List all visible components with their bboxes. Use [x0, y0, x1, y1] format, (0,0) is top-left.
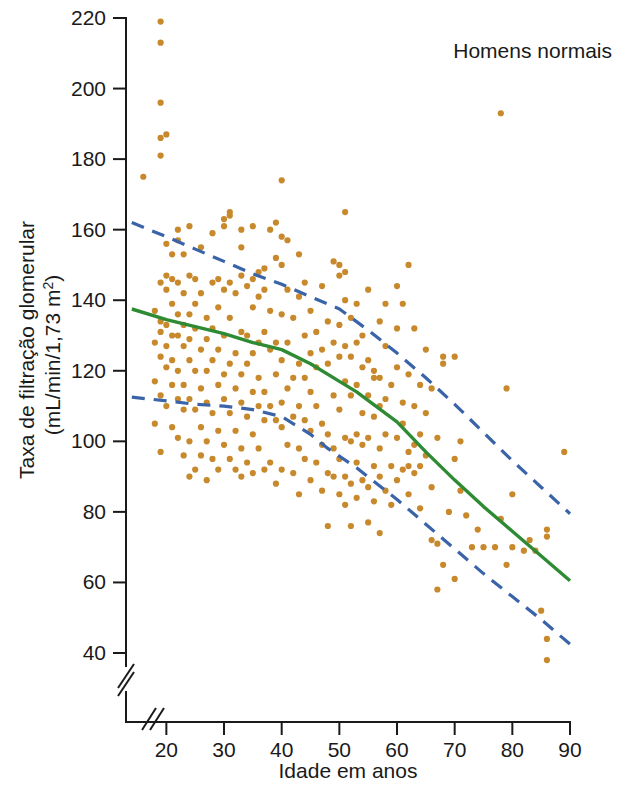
scatter-point: [348, 392, 354, 398]
scatter-point: [238, 227, 244, 233]
scatter-point: [544, 657, 550, 663]
scatter-point: [244, 283, 250, 289]
figure-container: 406080100120140160180200220 203040506070…: [0, 0, 620, 793]
scatter-point: [157, 392, 163, 398]
scatter-point: [227, 410, 233, 416]
scatter-point: [388, 382, 394, 388]
scatter-point: [198, 452, 204, 458]
scatter-point: [394, 364, 400, 370]
scatter-point: [342, 269, 348, 275]
x-tick-label: 50: [328, 738, 351, 761]
scatter-point: [463, 512, 469, 518]
scatter-point: [163, 272, 169, 278]
scatter-point: [319, 347, 325, 353]
scatter-point: [152, 421, 158, 427]
scatter-point: [400, 301, 406, 307]
scatter-point: [544, 533, 550, 539]
scatter-point: [238, 272, 244, 278]
scatter-point: [544, 636, 550, 642]
scatter-point: [215, 428, 221, 434]
scatter-point: [273, 220, 279, 226]
scatter-point: [354, 431, 360, 437]
scatter-point: [209, 456, 215, 462]
scatter-point: [492, 544, 498, 550]
scatter-point: [307, 477, 313, 483]
scatter-point: [250, 223, 256, 229]
scatter-point: [319, 283, 325, 289]
scatter-point: [371, 368, 377, 374]
scatter-point: [475, 526, 481, 532]
scatter-point: [417, 431, 423, 437]
scatter-point: [302, 332, 308, 338]
scatter-point: [186, 396, 192, 402]
y-axis-title-line2: (mL/min/1,73 m2): [40, 275, 64, 436]
scatter-point: [377, 530, 383, 536]
scatter-point: [354, 339, 360, 345]
scatter-point: [261, 417, 267, 423]
scatter-point: [157, 18, 163, 24]
scatter-point: [192, 276, 198, 282]
scatter-point: [250, 470, 256, 476]
scatter-point: [296, 294, 302, 300]
scatter-point: [163, 343, 169, 349]
scatter-point: [267, 308, 273, 314]
scatter-point: [354, 382, 360, 388]
scatter-point: [561, 449, 567, 455]
panel-title: Homens normais: [453, 39, 612, 62]
scatter-point: [342, 474, 348, 480]
scatter-point: [204, 477, 210, 483]
scatter-point: [457, 438, 463, 444]
scatter-point: [394, 477, 400, 483]
scatter-point: [238, 329, 244, 335]
scatter-point: [394, 283, 400, 289]
scatter-point: [192, 368, 198, 374]
x-axis-title: Idade em anos: [279, 759, 418, 782]
scatter-point: [290, 414, 296, 420]
scatter-point: [544, 526, 550, 532]
scatter-point: [163, 322, 169, 328]
scatter-point: [348, 523, 354, 529]
scatter-point: [411, 470, 417, 476]
scatter-point: [261, 466, 267, 472]
scatter-point: [440, 354, 446, 360]
scatter-point: [313, 403, 319, 409]
scatter-point: [238, 244, 244, 250]
scatter-point: [279, 311, 285, 317]
scatter-point: [284, 385, 290, 391]
scatter-point: [359, 332, 365, 338]
scatter-point: [175, 311, 181, 317]
scatter-point: [204, 315, 210, 321]
scatter-point: [238, 399, 244, 405]
gfr-scatter-chart: 406080100120140160180200220 203040506070…: [0, 0, 620, 793]
scatter-point: [296, 491, 302, 497]
scatter-point: [371, 498, 377, 504]
scatter-point: [198, 347, 204, 353]
scatter-point: [169, 301, 175, 307]
scatter-point: [296, 403, 302, 409]
scatter-point: [204, 438, 210, 444]
scatter-point: [232, 350, 238, 356]
scatter-point: [284, 237, 290, 243]
scatter-point: [256, 294, 262, 300]
x-tick-label: 30: [212, 738, 235, 761]
scatter-point: [336, 354, 342, 360]
scatter-point: [330, 339, 336, 345]
y-tick-label: 160: [71, 218, 106, 241]
scatter-point: [204, 336, 210, 342]
x-tick-label: 80: [501, 738, 524, 761]
y-tick-label: 200: [71, 77, 106, 100]
scatter-point: [411, 403, 417, 409]
scatter-point: [227, 361, 233, 367]
scatter-point: [429, 385, 435, 391]
scatter-point: [423, 410, 429, 416]
scatter-point: [382, 396, 388, 402]
scatter-point: [169, 276, 175, 282]
scatter-point: [250, 276, 256, 282]
y-axis-title-line1: Taxa de filtração glomerular: [15, 221, 38, 479]
scatter-point: [157, 152, 163, 158]
scatter-point: [273, 339, 279, 345]
scatter-point: [325, 318, 331, 324]
scatter-point: [169, 424, 175, 430]
scatter-point: [371, 463, 377, 469]
y-tick-label: 60: [83, 570, 106, 593]
